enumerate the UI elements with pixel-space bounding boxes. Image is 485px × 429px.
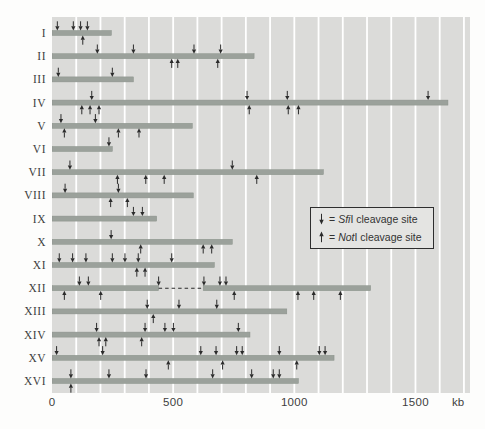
sfiI-cleavage-arrowhead xyxy=(236,328,240,332)
sfiI-cleavage-arrowhead xyxy=(426,96,430,100)
sfiI-cleavage-arrowhead xyxy=(215,305,219,309)
chromosome-label: XI xyxy=(0,258,46,272)
plot-area xyxy=(52,17,470,393)
chromosome-label: VIII xyxy=(0,188,46,202)
sfiI-cleavage-arrowhead xyxy=(285,96,289,100)
chromosome-bar xyxy=(52,54,254,59)
sfiI-cleavage-arrowhead xyxy=(214,351,218,355)
sfiI-cleavage-arrowhead xyxy=(95,50,99,54)
chromosome-bar xyxy=(203,286,370,291)
notI-cleavage-arrowhead xyxy=(151,314,155,318)
notI-up-arrow-icon xyxy=(318,231,325,243)
notI-cleavage-arrowhead xyxy=(139,244,143,248)
sfiI-cleavage-arrowhead xyxy=(211,374,215,378)
axis-tick-label: 1500 xyxy=(393,396,437,408)
sfiI-cleavage-arrowhead xyxy=(202,282,206,286)
notI-cleavage-arrowhead xyxy=(88,105,92,109)
sfiI-cleavage-arrowhead xyxy=(90,96,94,100)
sfiI-cleavage-arrowhead xyxy=(110,73,114,77)
sfiI-cleavage-arrowhead xyxy=(123,258,127,262)
chromosome-label: XII xyxy=(0,281,46,295)
sfiI-cleavage-arrowhead xyxy=(93,119,97,123)
chromosome-bar xyxy=(52,100,448,105)
legend-row-notI: = Not I cleavage site xyxy=(318,228,433,246)
sfiI-cleavage-arrowhead xyxy=(77,282,81,286)
sfiI-cleavage-arrowhead xyxy=(250,374,254,378)
sfiI-cleavage-arrowhead xyxy=(277,374,281,378)
legend-label: I cleavage site xyxy=(350,213,417,225)
chromosome-label: IX xyxy=(0,212,46,226)
chromosome-label: V xyxy=(0,119,46,133)
sfiI-cleavage-arrowhead xyxy=(69,374,73,378)
sfiI-cleavage-arrowhead xyxy=(116,189,120,193)
chromosome-label: IV xyxy=(0,96,46,110)
sfiI-cleavage-arrowhead xyxy=(131,50,135,54)
axis-tick-label: 0 xyxy=(30,396,74,408)
chromosome-label: VII xyxy=(0,165,46,179)
notI-cleavage-arrowhead xyxy=(62,128,66,132)
chromosome-bar xyxy=(52,77,133,82)
legend-equals: = xyxy=(329,213,335,225)
notI-cleavage-arrowhead xyxy=(312,291,316,295)
sfiI-cleavage-arrowhead xyxy=(78,26,82,30)
sfiI-cleavage-arrowhead xyxy=(224,282,228,286)
notI-cleavage-arrowhead xyxy=(166,360,170,364)
notI-cleavage-arrowhead xyxy=(255,175,259,179)
chromosome-label: XIV xyxy=(0,328,46,342)
notI-cleavage-arrowhead xyxy=(296,291,300,295)
sfiI-cleavage-arrowhead xyxy=(71,26,75,30)
chromosome-label: I xyxy=(0,26,46,40)
sfiI-cleavage-arrowhead xyxy=(70,258,74,262)
notI-cleavage-arrowhead xyxy=(135,268,139,272)
notI-cleavage-arrowhead xyxy=(162,175,166,179)
sfiI-cleavage-arrowhead xyxy=(107,142,111,146)
sfiI-cleavage-arrowhead xyxy=(323,351,327,355)
legend-label: I cleavage site xyxy=(354,231,421,243)
notI-cleavage-arrowhead xyxy=(99,291,103,295)
axis-tick-label: 500 xyxy=(151,396,195,408)
chromosome-bar xyxy=(52,263,214,268)
legend-enzyme-name: Not xyxy=(338,231,354,243)
notI-cleavage-arrowhead xyxy=(109,198,113,202)
sfiI-cleavage-arrowhead xyxy=(240,351,244,355)
axis-unit-label: kb xyxy=(443,396,473,408)
sfiI-cleavage-arrowhead xyxy=(177,305,181,309)
notI-cleavage-arrowhead xyxy=(338,291,342,295)
legend-row-sfiI: = Sfi I cleavage site xyxy=(318,210,433,228)
legend-equals: = xyxy=(329,231,335,243)
sfiI-cleavage-arrowhead xyxy=(55,351,59,355)
chromosome-bar xyxy=(52,123,192,128)
sfiI-cleavage-arrowhead xyxy=(131,212,135,216)
sfiI-cleavage-arrowhead xyxy=(271,374,275,378)
notI-cleavage-arrowhead xyxy=(176,59,180,63)
chromosome-label: XVI xyxy=(0,374,46,388)
notI-cleavage-arrowhead xyxy=(201,244,205,248)
plot-svg xyxy=(52,17,470,393)
sfiI-cleavage-arrowhead xyxy=(68,166,72,170)
chromosome-bar xyxy=(52,286,159,291)
notI-cleavage-arrowhead xyxy=(104,337,108,341)
notI-cleavage-arrowhead xyxy=(216,59,220,63)
notI-cleavage-arrowhead xyxy=(210,244,214,248)
chromosome-label: XIII xyxy=(0,304,46,318)
sfiI-cleavage-arrowhead xyxy=(136,258,140,262)
sfiI-cleavage-arrowhead xyxy=(56,73,60,77)
sfiI-cleavage-arrowhead xyxy=(59,119,63,123)
axis-tick-label: 1000 xyxy=(272,396,316,408)
sfiI-down-arrow-icon xyxy=(318,213,325,225)
notI-cleavage-arrowhead xyxy=(80,105,84,109)
chromosome-bar xyxy=(52,379,298,384)
chromosome-bar xyxy=(52,216,157,221)
sfiI-cleavage-arrowhead xyxy=(110,258,114,262)
notI-cleavage-arrowhead xyxy=(69,384,73,388)
chromosome-bar xyxy=(52,309,287,314)
legend-enzyme-name: Sfi xyxy=(338,213,350,225)
notI-cleavage-arrowhead xyxy=(81,36,85,40)
notI-cleavage-arrowhead xyxy=(144,175,148,179)
sfiI-cleavage-arrowhead xyxy=(157,282,161,286)
sfiI-cleavage-arrowhead xyxy=(163,328,167,332)
sfiI-cleavage-arrowhead xyxy=(192,50,196,54)
sfiI-cleavage-arrowhead xyxy=(109,235,113,239)
notI-cleavage-arrowhead xyxy=(125,198,129,202)
chromosome-label: X xyxy=(0,235,46,249)
